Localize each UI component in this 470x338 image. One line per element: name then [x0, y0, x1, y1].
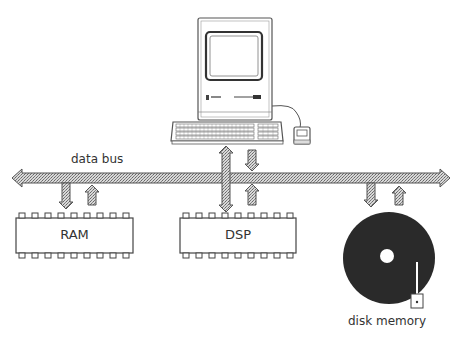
bus-to-disk-arrow: [364, 183, 378, 207]
mouse-icon: [294, 127, 310, 144]
disk-to-bus-arrow: [392, 186, 406, 205]
disk-spindle-hole: [380, 249, 394, 263]
keyboard: [171, 122, 283, 144]
ram-to-bus-arrow: [85, 185, 99, 205]
computer: [171, 18, 310, 144]
bus-label: data bus: [71, 152, 123, 166]
apple-logo-icon: [206, 95, 209, 100]
bus-to-ram-arrow: [59, 183, 73, 209]
ram-label: RAM: [16, 227, 133, 242]
dsp-to-bus-arrow: [245, 184, 259, 205]
diagram-canvas: [0, 0, 470, 338]
computer-to-bus-arrow: [245, 150, 259, 171]
dsp-label: DSP: [180, 227, 296, 242]
disk-memory: [343, 212, 435, 308]
disk-label: disk memory: [348, 314, 426, 328]
data-bus: [12, 169, 450, 187]
